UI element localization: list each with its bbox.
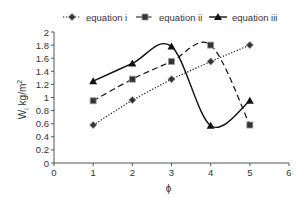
series-equation-iii — [89, 42, 254, 128]
legend: equation iequation iiequation iii — [63, 12, 277, 23]
y-tick-label: 1 — [44, 92, 49, 103]
square-marker-icon — [247, 122, 253, 128]
triangle-marker-icon — [246, 97, 254, 104]
legend-label: equation ii — [159, 12, 202, 23]
x-tick-label: 2 — [130, 167, 135, 178]
y-tick-label: 0.6 — [36, 118, 49, 129]
diamond-marker-icon — [90, 122, 97, 129]
diamond-legend-icon — [69, 14, 76, 21]
triangle-marker-icon — [128, 59, 136, 66]
diamond-marker-icon — [246, 42, 253, 49]
x-tick-label: 5 — [247, 167, 252, 178]
series-equation-ii — [90, 42, 253, 128]
triangle-marker-icon — [89, 77, 97, 84]
x-tick-label: 1 — [91, 167, 96, 178]
diamond-marker-icon — [129, 97, 136, 104]
legend-label: equation iii — [232, 12, 277, 23]
square-marker-icon — [169, 58, 175, 64]
square-marker-icon — [90, 98, 96, 104]
y-tick-label: 2 — [44, 27, 49, 38]
series-group — [89, 42, 254, 129]
x-axis: 0123456 — [51, 163, 291, 178]
diamond-marker-icon — [207, 58, 214, 65]
y-tick-label: 0.2 — [36, 144, 49, 155]
diamond-marker-icon — [168, 76, 175, 83]
series-equation-i — [90, 42, 254, 129]
square-marker-icon — [208, 42, 214, 48]
y-axis: 00.20.40.60.811.21.41.61.82 — [36, 27, 54, 169]
square-legend-icon — [142, 14, 148, 20]
y-tick-label: 0.8 — [36, 105, 49, 116]
legend-item-3: equation iii — [209, 12, 277, 23]
y-tick-label: 1.2 — [36, 79, 49, 90]
x-axis-title: ϕ — [166, 183, 172, 194]
legend-label: equation i — [86, 12, 127, 23]
x-tick-label: 6 — [286, 167, 291, 178]
triangle-marker-icon — [168, 42, 176, 49]
series-line — [93, 45, 250, 125]
y-axis-title: Wi kg/m2 — [16, 80, 30, 119]
y-tick-label: 0.4 — [36, 131, 49, 142]
line-chart: equation iequation iiequation iii 00.20.… — [0, 0, 308, 206]
legend-item-1: equation i — [63, 12, 127, 23]
legend-item-2: equation ii — [136, 12, 202, 23]
x-tick-label: 4 — [208, 167, 213, 178]
square-marker-icon — [129, 76, 135, 82]
y-tick-label: 0 — [44, 158, 49, 169]
y-tick-label: 1.8 — [36, 40, 49, 51]
series-line — [93, 44, 250, 128]
x-tick-label: 3 — [169, 167, 174, 178]
x-tick-label: 0 — [51, 167, 56, 178]
y-tick-label: 1.6 — [36, 53, 49, 64]
y-tick-label: 1.4 — [36, 66, 49, 77]
